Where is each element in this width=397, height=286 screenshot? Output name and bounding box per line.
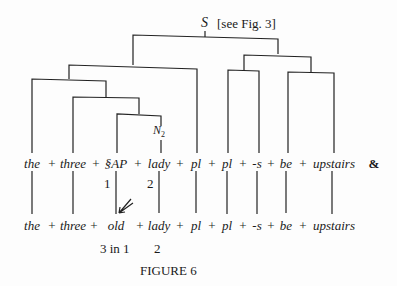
bracket-pl	[228, 70, 259, 153]
bracket-be-upstairs	[288, 72, 334, 153]
root-label: S	[201, 16, 208, 29]
tree-diagram	[0, 0, 397, 286]
index-3-in-1: 3 in 1	[100, 242, 130, 255]
word-be: be	[280, 218, 292, 234]
word-lady: lady	[148, 218, 170, 234]
double-arrow-icon	[119, 199, 133, 213]
word-three: three	[60, 156, 86, 172]
top-row: the + three + §AP + lady + pl + pl + -s …	[0, 156, 397, 172]
bracket-vp	[244, 55, 311, 72]
word-pl: pl	[222, 156, 232, 172]
word-pl: pl	[191, 218, 201, 234]
word-upstairs: upstairs	[313, 156, 355, 172]
word-ap: §AP	[105, 156, 127, 172]
root-note: [see Fig. 3]	[217, 17, 276, 30]
bracket-three	[73, 97, 139, 153]
word-pl: pl	[191, 156, 201, 172]
word-the: the	[24, 218, 40, 234]
node-label: N2	[153, 124, 165, 141]
word-upstairs: upstairs	[313, 218, 355, 234]
bracket-np	[32, 79, 106, 153]
word-lady: lady	[148, 156, 170, 172]
word-s: -s	[252, 156, 261, 172]
word-the: the	[24, 156, 40, 172]
bracket-root	[133, 35, 278, 65]
figure-caption: FIGURE 6	[140, 264, 197, 277]
word-three: three	[60, 218, 86, 234]
index-2: 2	[147, 177, 154, 190]
index-2-bottom: 2	[154, 242, 161, 255]
word-s: -s	[252, 218, 261, 234]
index-1: 1	[104, 177, 111, 190]
word-old: old	[108, 218, 125, 234]
ampersand: &	[369, 156, 380, 172]
word-pl: pl	[222, 218, 232, 234]
bottom-row: the + three + old + lady + pl + pl + -s …	[0, 218, 397, 234]
word-be: be	[280, 156, 292, 172]
